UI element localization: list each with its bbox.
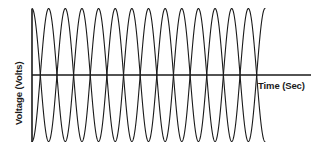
waveform-figure: Voltage (Volts) Time (Sec) — [0, 0, 324, 151]
y-axis-label: Voltage (Volts) — [13, 61, 24, 125]
x-axis-label: Time (Sec) — [258, 80, 305, 91]
waveform-plot: Voltage (Volts) Time (Sec) — [0, 0, 324, 151]
